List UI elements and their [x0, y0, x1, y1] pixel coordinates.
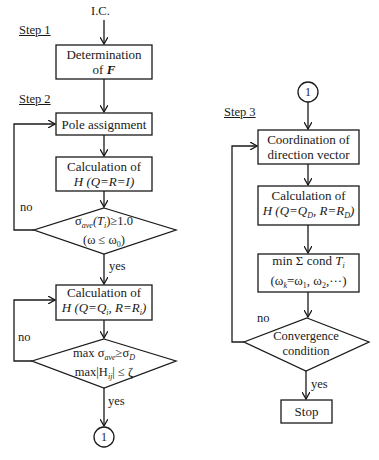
sub-d: D [129, 353, 135, 362]
omega-k: (ω [271, 273, 284, 288]
diamond2-condition: max σave≥σD max|Hij| ≤ ζ [50, 346, 158, 384]
step-2-label: Step 2 [19, 92, 51, 106]
var-h: H [263, 203, 272, 218]
coord-line1: Coordination of [267, 132, 350, 147]
connector-out-label: 1 [94, 427, 114, 447]
diamond1-no-label: no [20, 200, 33, 214]
calculation-h-identity-box: Calculation of H (Q=R=I) [56, 157, 152, 191]
geq-sigma: ≥σ [116, 346, 130, 360]
pole-assignment-text: Pole assignment [62, 117, 147, 132]
diamond1-yes-label: yes [109, 259, 126, 273]
sub-ave: ave [82, 221, 93, 230]
pole-assignment-box: Pole assignment [56, 113, 152, 135]
step-3-label: Step 3 [224, 105, 256, 119]
var-h: H [74, 174, 83, 189]
calc1-args: (Q=R=I) [83, 174, 134, 189]
threshold: )≥1.0 [106, 214, 133, 228]
leq-zeta: | ≤ ζ [112, 365, 133, 379]
calculation-h-qi-box: Calculation of H (Q=Qi, R=Ri) [56, 285, 152, 320]
diamond2-line2: max|Hij| ≤ ζ [50, 365, 158, 384]
of-text: of [93, 62, 107, 77]
variable-f: F [107, 62, 116, 77]
stop-text: Stop [295, 404, 319, 419]
r-eq: , R=R [313, 203, 344, 218]
min-sum-cond: min Σ cond [272, 253, 335, 268]
sub-i: i [342, 261, 344, 270]
sigma: σ [75, 214, 82, 228]
q-eq: (Q=Q [272, 203, 307, 218]
min-line2: (ωk=ω1, ω2,···) [271, 273, 347, 293]
max-h: max|H [75, 365, 108, 379]
close-paren: ) [142, 300, 146, 315]
calc3-line1: Calculation of [271, 188, 345, 203]
coordination-box: Coordination of direction vector [258, 130, 359, 164]
close-paren: ) [350, 203, 354, 218]
determination-box: Determination of F [56, 45, 152, 79]
coord-line2: direction vector [268, 147, 350, 162]
connector-in-label: 1 [298, 82, 318, 102]
start-label: I.C. [91, 4, 110, 18]
omega2: , ω [307, 273, 322, 288]
convergence-condition: Convergence condition [256, 329, 356, 359]
sub-ave: ave [104, 353, 115, 362]
calculation-h-qd-box: Calculation of H (Q=QD, R=RD) [258, 186, 359, 225]
calc3-line2: H (Q=QD, R=RD) [263, 203, 355, 223]
calc2-line1: Calculation of [67, 285, 141, 300]
diamond3-line1: Convergence [256, 329, 356, 344]
stop-box: Stop [281, 400, 332, 423]
q-eq: (Q=Q [71, 300, 106, 315]
calc1-line2: H (Q=R=I) [74, 174, 135, 189]
max-sigma: max σ [73, 346, 104, 360]
diamond3-line2: condition [256, 344, 356, 359]
diamond3-no-label: no [257, 311, 270, 325]
diamond1-line1: σave(Ti)≥1.0 [54, 214, 154, 233]
var-h: H [62, 300, 71, 315]
determination-line1: Determination [66, 47, 141, 62]
omega-cond: (ω ≤ ω [83, 233, 117, 247]
eq-omega1: =ω [287, 273, 303, 288]
min-line1: min Σ cond Ti [272, 253, 344, 273]
t-open: (T [93, 214, 104, 228]
diamond2-yes-label: yes [108, 394, 125, 408]
diamond3-yes-label: yes [311, 377, 328, 391]
ellipsis: ,···) [326, 273, 347, 288]
r-eq: , R=R [109, 300, 140, 315]
diamond1-condition: σave(Ti)≥1.0 (ω ≤ ω0) [54, 214, 154, 252]
calc1-line1: Calculation of [67, 159, 141, 174]
diamond2-line1: max σave≥σD [50, 346, 158, 365]
diamond2-no-label: no [18, 330, 31, 344]
calc2-line2: H (Q=Qi, R=Ri) [62, 300, 147, 320]
step-1-label: Step 1 [19, 23, 51, 37]
close-paren: ) [121, 233, 125, 247]
diamond1-line2: (ω ≤ ω0) [54, 233, 154, 252]
min-cond-box: min Σ cond Ti (ωk=ω1, ω2,···) [258, 254, 359, 292]
determination-line2: of F [93, 62, 116, 77]
